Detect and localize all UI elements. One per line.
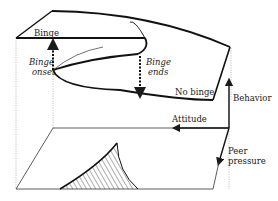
binge-ends-label-line2: ends [148,68,168,77]
peer-pressure-label-line1: Peer [228,147,247,156]
behavior-label: Behavior [233,94,272,103]
binge-onset-label-line1: Binge [29,58,54,67]
attitude-label: Attitude [172,115,207,124]
binge-label: Binge [34,29,59,38]
cusp-catastrophe-diagram: Binge Binge onset Binge ends No binge Be… [0,0,278,201]
no-binge-label: No binge [175,88,214,97]
binge-onset-label-line2: onset [32,68,55,77]
binge-ends-label-line1: Binge [146,58,171,67]
peer-pressure-label-line2: pressure [228,157,266,166]
